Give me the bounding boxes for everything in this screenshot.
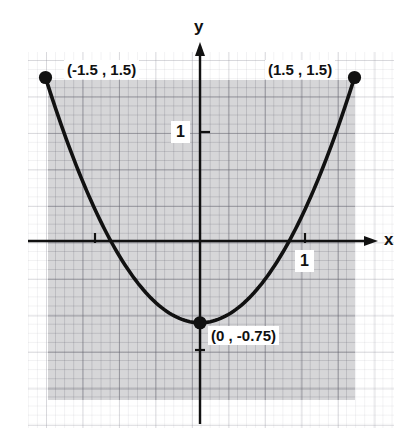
graph-figure: (-1.5 , 1.5) (1.5 , 1.5) (0 , -0.75) 1 1… [0,0,408,436]
plot-canvas [0,0,408,436]
point-marker-right-endpoint [348,71,361,84]
label-vertex: (0 , -0.75) [208,326,279,345]
label-left-endpoint: (-1.5 , 1.5) [64,60,139,79]
y-axis-arrowhead [195,42,205,56]
y-axis-label: y [194,18,203,35]
point-marker-left-endpoint [39,71,52,84]
y-axis-tick-label: 1 [171,121,190,143]
x-axis-tick-label: 1 [295,250,314,272]
label-right-endpoint: (1.5 , 1.5) [265,60,335,79]
x-axis-arrowhead [364,236,378,246]
x-axis-label: x [384,231,393,248]
point-marker-vertex [193,316,206,329]
